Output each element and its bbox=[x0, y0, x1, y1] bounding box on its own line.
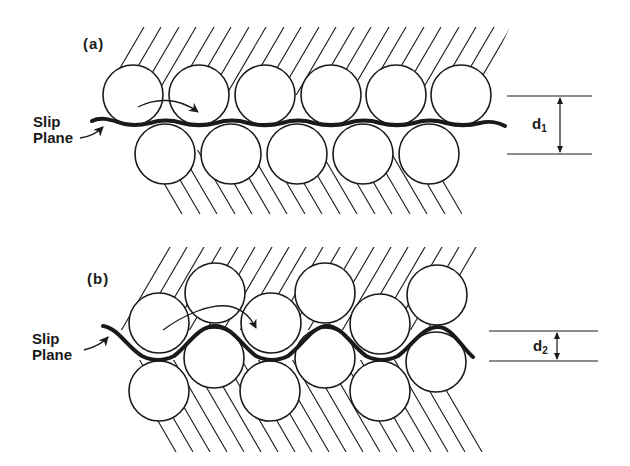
atom bbox=[333, 124, 393, 184]
atoms-top-row-a bbox=[103, 65, 491, 125]
panel-label-b: (b) bbox=[87, 271, 109, 286]
atom bbox=[103, 65, 163, 125]
atom bbox=[399, 124, 459, 184]
atom bbox=[241, 293, 301, 353]
spacing-subscript-d2: 2 bbox=[542, 345, 548, 356]
atom bbox=[267, 124, 327, 184]
spacing-symbol-d1: d bbox=[532, 115, 541, 132]
slip-plane-label-b: Slip Plane bbox=[32, 331, 72, 363]
atom bbox=[301, 65, 361, 125]
panel-label-a: (a) bbox=[83, 36, 104, 51]
atom bbox=[350, 361, 410, 421]
atom bbox=[129, 293, 189, 353]
slip-plane-pointer-b bbox=[84, 337, 108, 350]
spacing-symbol-d2: d bbox=[533, 337, 542, 354]
spacing-marker-d1 bbox=[507, 96, 592, 154]
spacing-label-d1: d1 bbox=[532, 116, 547, 134]
panel-a bbox=[80, 27, 592, 214]
atom bbox=[431, 65, 491, 125]
atom bbox=[201, 124, 261, 184]
atom bbox=[295, 263, 355, 323]
atom bbox=[135, 124, 195, 184]
atom bbox=[366, 65, 426, 125]
slip-plane-label-a-line2: Plane bbox=[33, 130, 73, 146]
atom bbox=[185, 263, 245, 323]
atom bbox=[407, 265, 467, 325]
atom bbox=[235, 65, 295, 125]
slip-plane-label-b-line2: Plane bbox=[32, 347, 72, 363]
atoms-bottom-row-a bbox=[135, 124, 459, 184]
slip-plane-diagram bbox=[0, 0, 630, 466]
slip-plane-label-a-line1: Slip bbox=[33, 114, 73, 130]
slip-plane-label-b-line1: Slip bbox=[32, 331, 72, 347]
atom bbox=[129, 361, 189, 421]
atom bbox=[240, 361, 300, 421]
spacing-subscript-d1: 1 bbox=[541, 123, 547, 134]
atom bbox=[169, 65, 229, 125]
atom bbox=[350, 294, 410, 354]
panel-b bbox=[84, 247, 598, 452]
spacing-label-d2: d2 bbox=[533, 338, 548, 356]
slip-plane-label-a: Slip Plane bbox=[33, 114, 73, 146]
slip-plane-pointer-a bbox=[80, 127, 103, 138]
